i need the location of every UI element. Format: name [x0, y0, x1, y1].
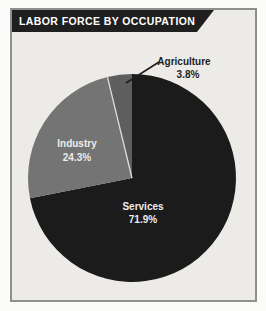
pie-chart: Agriculture 3.8% Industry 24.3% Services… — [12, 10, 255, 300]
industry-percentage: 24.3% — [63, 152, 91, 163]
industry-label: Industry — [57, 138, 97, 149]
services-label: Services — [122, 201, 164, 212]
services-percentage: 71.9% — [129, 214, 157, 225]
agriculture-percentage: 3.8% — [177, 69, 200, 80]
agriculture-label: Agriculture — [157, 56, 211, 67]
chart-frame: LABOR FORCE BY OCCUPATION Agriculture 3.… — [10, 8, 257, 302]
